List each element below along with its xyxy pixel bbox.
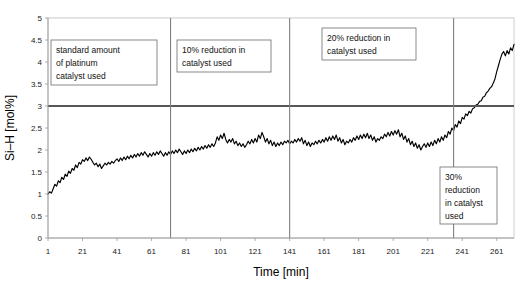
y-axis-title: Si–H [mol%] xyxy=(3,95,17,161)
y-tick-label: 3.5 xyxy=(31,80,43,89)
y-tick-label: 4.5 xyxy=(31,36,43,45)
y-tick-label: 4 xyxy=(38,58,43,67)
annotation-line: catalyst used xyxy=(327,46,377,56)
annotation-standard-amount: standard amountof platinumcatalyst used xyxy=(51,40,157,85)
x-tick-label: 101 xyxy=(214,247,228,256)
x-tick-label: 161 xyxy=(317,247,331,256)
annotation-line: 10% reduction in xyxy=(182,45,246,55)
y-tick-label: 0.5 xyxy=(31,212,43,221)
y-tick-label: 1 xyxy=(38,190,43,199)
annotation-line: catalyst used xyxy=(56,71,106,81)
x-tick-label: 61 xyxy=(147,247,156,256)
annotation-line: reduction xyxy=(445,185,480,195)
y-tick-label: 2.5 xyxy=(31,124,43,133)
y-tick-label: 5 xyxy=(38,14,43,23)
x-tick-label: 241 xyxy=(456,247,470,256)
annotation-line: of platinum xyxy=(56,58,98,68)
x-tick-label: 221 xyxy=(421,247,435,256)
x-tick-label: 141 xyxy=(283,247,297,256)
annotation-line: in catalyst xyxy=(445,198,483,208)
y-tick-label: 3 xyxy=(38,102,43,111)
x-tick-label: 201 xyxy=(387,247,401,256)
x-tick-label: 41 xyxy=(113,247,122,256)
x-tick-label: 181 xyxy=(352,247,366,256)
y-tick-label: 2 xyxy=(38,146,43,155)
x-axis-title: Time [min] xyxy=(253,265,309,279)
annotation-30-percent: 30%reductionin catalystused xyxy=(440,167,497,224)
y-tick-label: 0 xyxy=(38,234,43,243)
y-tick-label: 1.5 xyxy=(31,168,43,177)
chart-svg: 00.511.522.533.544.551214161811011211411… xyxy=(0,0,521,281)
annotation-line: used xyxy=(445,211,464,221)
annotation-line: standard amount xyxy=(56,45,120,55)
annotation-line: 20% reduction in xyxy=(327,33,391,43)
chart-container: 00.511.522.533.544.551214161811011211411… xyxy=(0,0,521,281)
x-tick-label: 121 xyxy=(248,247,262,256)
annotation-20-percent: 20% reduction incatalyst used xyxy=(322,28,416,60)
annotation-10-percent: 10% reduction incatalyst used xyxy=(177,40,271,72)
annotation-line: catalyst used xyxy=(182,58,232,68)
x-tick-label: 1 xyxy=(46,247,51,256)
annotation-line: 30% xyxy=(445,172,462,182)
x-tick-label: 261 xyxy=(490,247,504,256)
x-tick-label: 81 xyxy=(182,247,191,256)
x-tick-label: 21 xyxy=(78,247,87,256)
